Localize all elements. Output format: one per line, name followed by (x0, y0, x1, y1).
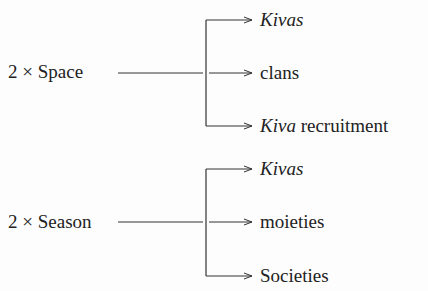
target-label-moieties: moieties (260, 211, 324, 233)
target-label-kivas-1: Kivas (260, 9, 303, 31)
group-season-connectors (118, 169, 252, 276)
group-space-connectors (118, 20, 252, 126)
connector-lines (0, 0, 428, 291)
target-italic: Kivas (260, 9, 303, 30)
target-rest: clans (260, 62, 299, 83)
target-label-clans: clans (260, 62, 299, 84)
target-label-kivas-2: Kivas (260, 158, 303, 180)
source-label-space: 2 × Space (8, 61, 83, 83)
target-rest: Societies (260, 265, 329, 286)
target-italic: Kiva (260, 115, 296, 136)
target-label-kiva-recruitment: Kiva recruitment (260, 115, 388, 137)
target-rest: recruitment (296, 115, 388, 136)
target-italic: Kivas (260, 158, 303, 179)
source-label-season: 2 × Season (8, 211, 92, 233)
target-label-societies: Societies (260, 265, 329, 287)
target-rest: moieties (260, 211, 324, 232)
